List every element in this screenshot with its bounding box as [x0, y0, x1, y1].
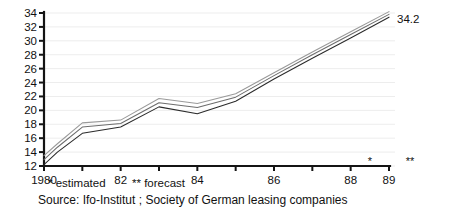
y-tick-label-24: 24: [24, 77, 37, 89]
estimated-marker: *: [368, 155, 373, 167]
x-tick-label-89: 89: [383, 174, 396, 186]
footnote-forecast: ** forecast: [132, 177, 186, 189]
y-tick-label-28: 28: [24, 49, 37, 61]
y-tick-label-30: 30: [24, 35, 37, 47]
y-tick-labels-group: 121416182022242628303234: [24, 7, 37, 172]
source-caption: Source: Ifo-Institut ; Society of German…: [38, 193, 347, 207]
x-tick-label-86: 86: [268, 174, 281, 186]
forecast-marker: **: [406, 155, 415, 167]
x-tick-label-82: 82: [114, 174, 127, 186]
axes-group: [44, 12, 390, 166]
annotations-group: 34.2: [397, 13, 419, 25]
y-tick-label-20: 20: [24, 104, 37, 116]
y-tick-label-26: 26: [24, 63, 37, 75]
y-tick-label-12: 12: [24, 160, 37, 172]
chart-figure: 121416182022242628303234 19808284868889 …: [0, 0, 450, 213]
footnote-estimated: * estimated: [48, 177, 106, 189]
y-tick-label-18: 18: [24, 118, 37, 130]
data-series-group: [44, 12, 389, 165]
y-tick-label-32: 32: [24, 21, 37, 33]
line-chart-canvas: 121416182022242628303234 19808284868889 …: [0, 0, 450, 213]
end-value-label: 34.2: [397, 13, 419, 25]
x-tick-label-88: 88: [344, 174, 357, 186]
x-tick-label-84: 84: [191, 174, 204, 186]
series-line-upper: [44, 12, 389, 156]
y-tick-label-22: 22: [24, 90, 37, 102]
y-tick-label-34: 34: [24, 7, 37, 19]
y-tick-label-16: 16: [24, 132, 37, 144]
y-tick-label-14: 14: [24, 146, 37, 158]
